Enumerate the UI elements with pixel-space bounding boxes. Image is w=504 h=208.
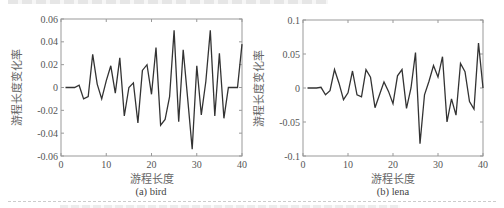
x-tick-label: 20 <box>388 159 398 170</box>
plot-frame <box>61 19 242 156</box>
x-tick-label: 0 <box>59 159 64 170</box>
chart-lena: -0.1-0.0500.050.1010203040游程长度游程长度变化率 <box>252 0 504 200</box>
chart-bird-plot: -0.06-0.04-0.0200.020.040.06010203040游程长… <box>0 0 252 200</box>
y-tick-label: 0 <box>53 82 58 93</box>
caption-lena: (b) lena <box>333 186 453 197</box>
x-tick-label: 30 <box>433 159 443 170</box>
y-axis-title: 游程长度变化率 <box>252 50 266 127</box>
x-axis-title: 游程长度 <box>371 172 415 186</box>
y-tick-label: 0.06 <box>41 14 59 25</box>
chart-bird: -0.06-0.04-0.0200.020.040.06010203040游程长… <box>0 0 252 200</box>
x-tick-label: 40 <box>237 159 247 170</box>
y-tick-label: -0.1 <box>284 151 300 162</box>
y-tick-label: -0.04 <box>37 128 58 139</box>
data-series-line <box>308 43 484 144</box>
chart-lena-plot: -0.1-0.0500.050.1010203040游程长度游程长度变化率 <box>252 0 504 200</box>
y-axis-title: 游程长度变化率 <box>10 49 24 126</box>
x-axis-title: 游程长度 <box>130 172 174 186</box>
y-tick-label: -0.06 <box>37 151 58 162</box>
x-tick-label: 0 <box>301 159 306 170</box>
y-tick-label: 0.1 <box>288 15 301 26</box>
x-tick-label: 20 <box>147 159 157 170</box>
y-tick-label: 0.04 <box>41 36 59 47</box>
data-series-line <box>66 30 243 149</box>
x-tick-label: 30 <box>192 159 202 170</box>
x-tick-label: 10 <box>101 159 111 170</box>
caption-bird: (a) bird <box>91 186 211 197</box>
y-tick-label: -0.02 <box>37 105 58 116</box>
cropped-text-bottom <box>60 205 400 208</box>
y-tick-label: -0.05 <box>279 117 300 128</box>
y-tick-label: 0.02 <box>41 59 59 70</box>
x-tick-label: 10 <box>343 159 353 170</box>
separator-line <box>8 201 496 202</box>
y-tick-label: 0 <box>295 83 300 94</box>
y-tick-label: 0.05 <box>283 49 301 60</box>
x-tick-label: 40 <box>478 159 488 170</box>
